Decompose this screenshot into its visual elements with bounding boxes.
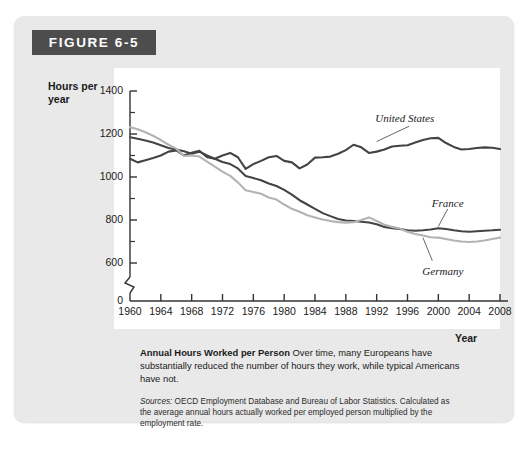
y-tick-label: 800	[83, 213, 123, 225]
x-tick-label: 1996	[391, 305, 425, 317]
y-tick-label: 600	[83, 256, 123, 268]
x-tick-label: 2000	[421, 305, 455, 317]
caption-block: Annual Hours Worked per Person Over time…	[140, 346, 462, 430]
x-tick-label: 1964	[144, 305, 178, 317]
sources-body: OECD Employment Database and Bureau of L…	[140, 397, 449, 429]
x-tick-label: 1992	[360, 305, 394, 317]
x-tick-label: 1972	[206, 305, 240, 317]
chart-plot: 0600800100012001400196019641968197219761…	[28, 32, 514, 322]
figure-card: FIGURE 6-5 Hours per year Year 060080010…	[14, 16, 514, 422]
y-tick-label: 1200	[83, 127, 123, 139]
series-group	[130, 127, 500, 242]
x-tick-label: 1960	[113, 305, 147, 317]
sources-label: Sources:	[140, 397, 172, 406]
caption-title: Annual Hours Worked per Person	[140, 347, 290, 358]
series-line-united-states	[130, 138, 500, 169]
x-tick-label: 1984	[298, 305, 332, 317]
series-label-germany: Germany	[422, 265, 463, 277]
series-line-germany	[130, 127, 500, 242]
x-tick-label: 1968	[175, 305, 209, 317]
y-tick-label: 1400	[83, 84, 123, 96]
x-tick-label: 1988	[329, 305, 363, 317]
sources-paragraph: Sources: OECD Employment Database and Bu…	[140, 396, 462, 430]
series-label-united-states: United States	[375, 112, 434, 124]
annotation-leader-lines	[377, 126, 448, 261]
y-tick-label: 1000	[83, 170, 123, 182]
x-tick-label: 2004	[452, 305, 486, 317]
caption-paragraph: Annual Hours Worked per Person Over time…	[140, 346, 462, 386]
x-tick-label: 1976	[236, 305, 270, 317]
series-label-france: France	[432, 197, 464, 209]
x-tick-label: 1980	[267, 305, 301, 317]
x-axis-title: Year	[455, 332, 477, 344]
x-tick-label: 2008	[483, 305, 517, 317]
